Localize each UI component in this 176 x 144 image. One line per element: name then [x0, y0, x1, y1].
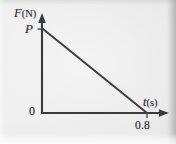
y-axis-label: F(N)	[14, 7, 36, 20]
x-axis-arrowhead	[159, 109, 169, 117]
x-tick-label: 0.8	[135, 120, 150, 132]
y-axis-arrowhead	[38, 13, 46, 23]
x-axis-label: t(s)	[143, 96, 158, 109]
y-axis-variable: F	[14, 6, 22, 20]
y-value-marker-label: P	[25, 22, 33, 35]
origin-label: 0	[29, 105, 35, 117]
force-decay-line	[43, 29, 147, 113]
y-axis-unit: (N)	[22, 8, 37, 19]
x-axis-unit: (s)	[146, 97, 157, 108]
force-time-graph-figure: F(N) t(s) P 0 0.8	[0, 0, 176, 144]
